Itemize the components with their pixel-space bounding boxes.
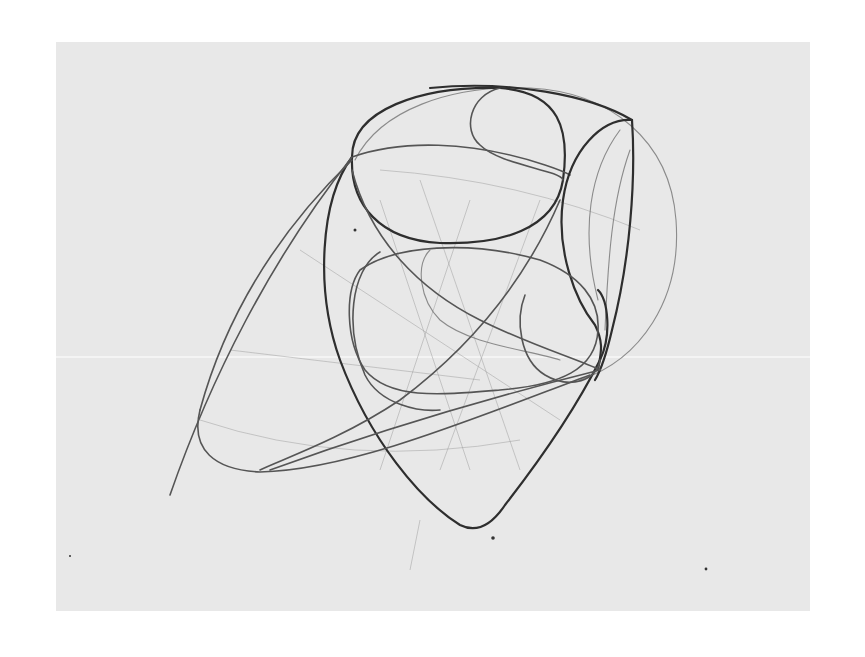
pencil-dot [354,229,357,232]
right-lens-inner [589,130,620,300]
pencil-dot [491,536,495,540]
construction-lines [200,170,640,570]
top-sweep [430,86,632,120]
right-lens [562,120,632,370]
bottom-loop [198,375,590,472]
pencil-dot [705,568,708,571]
pencil-dot [69,555,71,557]
center-inner-ellipse [421,250,560,360]
right-diagonal [260,200,560,470]
lower-right-ellipse [520,295,600,382]
center-left-ellipse [353,252,440,410]
lower-swoosh [270,370,600,470]
left-sweep-curve [170,157,352,495]
bottom-loop-2 [200,160,352,410]
middle-ellipse [349,248,598,394]
pencil-sketch [0,0,865,657]
